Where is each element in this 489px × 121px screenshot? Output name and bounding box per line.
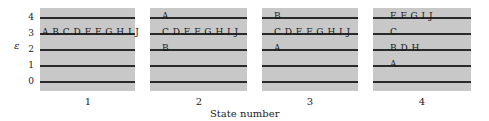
particles-level-4: B xyxy=(274,12,281,21)
particles-level-2: B xyxy=(162,44,169,53)
y-tick-4: 4 xyxy=(24,13,34,22)
state-panel-1: A B C D E F G H I J xyxy=(40,8,135,91)
energy-level-3 xyxy=(373,33,471,35)
y-tick-0: 0 xyxy=(24,77,34,86)
y-tick-2: 2 xyxy=(24,45,34,54)
state-panel-2: A C D E F G H I J B xyxy=(150,8,247,91)
particles-level-2: B D H xyxy=(390,44,420,53)
energy-level-4 xyxy=(40,17,135,19)
energy-level-0 xyxy=(150,81,247,83)
energy-level-1 xyxy=(262,65,358,67)
particles-level-2: A xyxy=(274,44,281,53)
particles-level-4: E F G I J xyxy=(390,12,433,21)
y-tick-3: 3 xyxy=(24,29,34,38)
particles-level-4: A xyxy=(162,12,169,21)
y-axis-label: ε xyxy=(14,40,19,51)
y-tick-1: 1 xyxy=(24,61,34,70)
particles-level-1: A xyxy=(390,60,397,69)
state-panel-4: E F G I J C B D H A xyxy=(373,8,471,91)
x-axis-label: State number xyxy=(210,108,279,119)
energy-level-1 xyxy=(150,65,247,67)
energy-level-1 xyxy=(373,65,471,67)
state-panel-3: B C D E F G H I J A xyxy=(262,8,358,91)
energy-level-2 xyxy=(40,49,135,51)
particles-level-3: C xyxy=(390,28,397,37)
particles-level-3: A B C D E F G H I J xyxy=(42,28,139,37)
state-number-2: 2 xyxy=(189,96,209,107)
particles-level-3: C D E F G H I J xyxy=(162,28,239,37)
energy-level-2 xyxy=(373,49,471,51)
particles-level-3: C D E F G H I J xyxy=(274,28,351,37)
state-number-4: 4 xyxy=(412,96,432,107)
energy-level-1 xyxy=(40,65,135,67)
state-number-1: 1 xyxy=(78,96,98,107)
energy-level-0 xyxy=(262,81,358,83)
energy-level-0 xyxy=(373,81,471,83)
energy-level-0 xyxy=(40,81,135,83)
state-number-3: 3 xyxy=(300,96,320,107)
